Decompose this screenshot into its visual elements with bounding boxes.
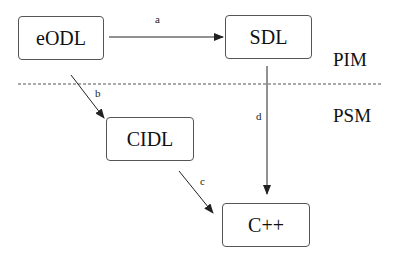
edge-d-label: d [256, 110, 262, 122]
zone-pim-label: PIM [333, 49, 367, 71]
edge-a-label: a [155, 13, 160, 25]
edge-c-label: c [200, 175, 205, 187]
node-cidl: CIDL [106, 117, 194, 161]
node-sdl: SDL [225, 15, 312, 59]
node-cpp: C++ [222, 203, 310, 247]
edge-b-label: b [95, 87, 101, 99]
edge-c-arrow [179, 171, 213, 213]
node-eodl: eODL [18, 16, 104, 60]
zone-psm-label: PSM [333, 105, 371, 127]
